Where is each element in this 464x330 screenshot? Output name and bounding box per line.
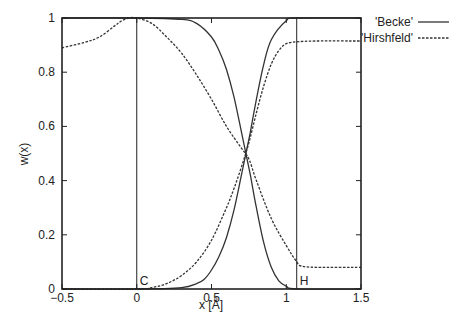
plot-frame: [62, 18, 361, 289]
x-axis-title: x [Å]: [199, 297, 223, 312]
atom-label-c: C: [140, 274, 149, 288]
x-tick-label: 1.5: [353, 291, 370, 305]
legend: 'Becke' 'Hirshfeld': [361, 15, 449, 45]
y-tick-label: 1: [48, 11, 55, 25]
y-axis-title: w(x): [17, 143, 31, 167]
line-chart: −0.500.511.5 00.20.40.60.81 CH x [Å] w(x…: [0, 0, 464, 330]
plot-curves: [62, 17, 361, 289]
y-tick-label: 0.4: [38, 174, 55, 188]
becke-curve-c: [62, 18, 361, 289]
legend-label-hirshfeld: 'Hirshfeld': [361, 31, 413, 45]
legend-label-becke: 'Becke': [375, 15, 413, 29]
x-tick-label: 0: [133, 291, 140, 305]
becke-curve-h: [62, 18, 361, 289]
y-tick-label: 0: [48, 282, 55, 296]
x-axis-ticks: −0.500.511.5: [50, 18, 370, 305]
y-tick-label: 0.2: [38, 228, 55, 242]
y-tick-label: 0.6: [38, 119, 55, 133]
hirshfeld-curve-c: [62, 17, 361, 267]
y-axis-ticks: 00.20.40.60.81: [38, 11, 361, 296]
x-tick-label: 1: [283, 291, 290, 305]
y-tick-label: 0.8: [38, 65, 55, 79]
hirshfeld-curve-h: [62, 41, 361, 289]
atom-label-h: H: [300, 274, 309, 288]
